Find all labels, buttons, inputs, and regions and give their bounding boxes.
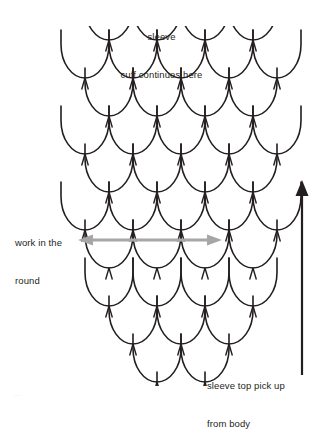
work-in-the-round-label-line1: work in the — [15, 237, 62, 250]
work-in-the-round-label: work in the round — [15, 212, 62, 312]
sleeve-top-pickup-label-line2: from body — [207, 418, 285, 431]
sleeve-cuff-label-line1: sleeve — [0, 31, 323, 44]
knitting-direction-arrow — [296, 180, 309, 375]
work-in-the-round-label-line2: round — [15, 275, 62, 288]
arrow-shaft — [301, 196, 303, 375]
work-in-the-round-width-arrow — [78, 235, 222, 246]
sleeve-top-pickup-label-line1: sleeve top pick up — [207, 380, 285, 393]
sleeve-top-pickup-label: sleeve top pick up from body — [207, 355, 285, 433]
sleeve-cuff-label-line2: cuff continues here — [0, 69, 323, 82]
scale-stem — [178, 420, 184, 431]
sleeve-cuff-label: sleeve cuff continues here — [0, 6, 323, 106]
footer-cut-off-text: ... — [14, 388, 20, 401]
arrow-shaft — [93, 239, 207, 242]
arrow-head-right — [207, 235, 222, 246]
arrow-head-left — [78, 235, 93, 246]
arrow-head-up — [296, 180, 309, 196]
